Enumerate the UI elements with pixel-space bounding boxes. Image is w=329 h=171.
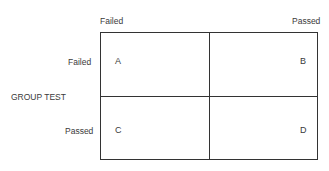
row-axis-label: GROUP TEST	[11, 92, 66, 102]
cell-d: D	[300, 125, 307, 135]
contingency-table: A B C D	[100, 32, 318, 160]
horizontal-divider	[101, 96, 317, 97]
cell-b: B	[300, 56, 306, 66]
column-header-passed: Passed	[292, 16, 320, 26]
column-header-failed: Failed	[100, 16, 123, 26]
cell-a: A	[115, 56, 121, 66]
row-header-failed: Failed	[68, 57, 91, 67]
cell-c: C	[115, 125, 122, 135]
row-header-passed: Passed	[65, 126, 93, 136]
